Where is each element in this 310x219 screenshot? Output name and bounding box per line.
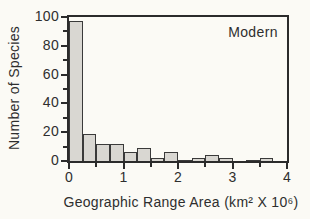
y-axis-major-tick [61, 131, 67, 133]
y-axis-minor-tick [63, 88, 67, 90]
y-axis-major-tick [61, 160, 67, 162]
x-tick-label: 3 [228, 170, 236, 184]
histogram-bar [178, 160, 192, 161]
histogram-bar [96, 144, 110, 161]
y-tick-label: 40 [43, 95, 59, 110]
y-axis-major-tick [61, 16, 67, 18]
histogram-bar [246, 160, 260, 161]
x-tick-label: 4 [283, 170, 291, 184]
histogram-bar [164, 152, 178, 161]
histogram-bar [137, 148, 151, 161]
histogram-bar [151, 158, 165, 161]
y-tick-label: 80 [43, 38, 59, 53]
x-axis-minor-tick [95, 163, 97, 167]
histogram-bar [219, 158, 233, 161]
histogram-figure: Number of Species Geographic Range Area … [0, 0, 310, 219]
x-axis-title: Geographic Range Area (km² X 10⁶) [63, 194, 298, 210]
histogram-bar [83, 134, 97, 161]
y-axis-minor-tick [63, 30, 67, 32]
x-axis-minor-tick [259, 163, 261, 167]
x-axis-minor-tick [150, 163, 152, 167]
histogram-bar [110, 144, 124, 161]
histogram-bar [205, 155, 219, 161]
histogram-bar [69, 21, 83, 161]
panel-annotation: Modern [228, 24, 278, 40]
x-tick-label: 0 [65, 170, 73, 184]
y-tick-label: 0 [51, 153, 59, 168]
y-axis-minor-tick [63, 146, 67, 148]
y-axis-major-tick [61, 74, 67, 76]
y-axis-title: Number of Species [6, 26, 22, 150]
histogram-bar [124, 152, 138, 161]
x-tick-label: 1 [119, 170, 127, 184]
y-tick-label: 100 [35, 9, 59, 24]
y-tick-label: 20 [43, 124, 59, 139]
histogram-bar [260, 158, 274, 161]
y-tick-label: 60 [43, 67, 59, 82]
y-axis-major-tick [61, 102, 67, 104]
y-axis-minor-tick [63, 117, 67, 119]
x-axis-minor-tick [204, 163, 206, 167]
plot-area: Modern 01234020406080100 [67, 15, 289, 163]
y-axis-minor-tick [63, 59, 67, 61]
y-axis-major-tick [61, 45, 67, 47]
x-tick-label: 2 [174, 170, 182, 184]
histogram-bar [192, 158, 206, 161]
